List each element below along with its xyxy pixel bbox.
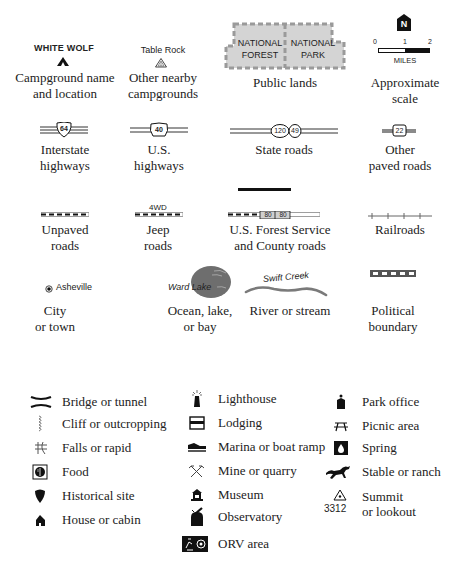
railroads-caption: Railroads — [355, 222, 445, 238]
other-paved-shield: 22 — [393, 127, 406, 134]
symbol-orv: ORV area — [182, 534, 269, 554]
mine-icon — [186, 464, 208, 478]
food-icon — [30, 464, 52, 480]
campground-icon — [57, 57, 69, 67]
other-campground-icon — [155, 58, 167, 68]
symbol-house: House or cabin — [30, 510, 141, 530]
city-dot-icon — [45, 285, 53, 293]
jeep-caption: Jeep roads — [113, 222, 203, 254]
symbol-stable: Stable or ranch — [324, 462, 441, 482]
state-road-shield-2: 49 — [289, 127, 301, 134]
city-map-label: Asheville — [56, 282, 92, 292]
jeep-road-line — [135, 212, 183, 218]
historical-site-icon — [30, 488, 52, 504]
stable-icon — [324, 463, 352, 481]
interstate-shield: 64 — [56, 125, 72, 132]
lake-map-label: Ward Lake — [168, 282, 211, 292]
lighthouse-icon — [186, 390, 208, 408]
cliff-icon — [30, 415, 52, 433]
us-highway-shield: 40 — [151, 126, 167, 133]
bridge-icon — [30, 395, 52, 409]
jeep-map-label: 4WD — [140, 203, 176, 212]
symbol-food: Food — [30, 462, 89, 482]
marina-icon — [186, 440, 208, 454]
other-paved-caption: Other paved roads — [355, 142, 445, 174]
other-campground-map-label: Table Rock — [133, 45, 193, 55]
symbol-lodging: Lodging — [186, 413, 262, 433]
county-road-shield: 80 — [276, 211, 290, 219]
state-roads-caption: State roads — [234, 142, 334, 158]
unpaved-road-line — [41, 212, 89, 218]
symbol-historical-site: Historical site — [30, 486, 135, 506]
scale-caption: Approximate scale — [360, 75, 450, 107]
summit-icon — [333, 489, 347, 501]
observatory-icon — [186, 507, 208, 527]
scale-unit: MILES — [385, 56, 425, 65]
lodging-icon — [186, 416, 208, 430]
museum-icon — [186, 488, 208, 502]
national-forest-label: NATIONAL FOREST — [234, 37, 286, 61]
forest-service-caption: U.S. Forest Service and County roads — [220, 222, 340, 254]
forest-service-shield: 80 — [261, 211, 275, 219]
national-park-label: NATIONAL PARK — [287, 37, 339, 61]
symbol-museum: Museum — [186, 485, 264, 505]
symbol-observatory: Observatory — [186, 507, 282, 527]
political-caption: Political boundary — [348, 303, 438, 335]
scale-tick-1: 1 — [403, 38, 407, 45]
symbol-falls: Falls or rapid — [30, 438, 131, 458]
picnic-icon — [330, 419, 352, 433]
symbol-cliff: Cliff or outcropping — [30, 414, 166, 434]
us-highway-caption: U.S. highways — [114, 142, 204, 174]
river-map-label: Swift Creek — [263, 270, 310, 284]
orv-icon — [182, 536, 208, 552]
lake-caption: Ocean, lake, or bay — [155, 303, 245, 335]
city-caption: City or town — [20, 303, 90, 335]
symbol-marina: Marina or boat ramp — [186, 437, 325, 457]
symbol-summit: 3312 Summit or lookout — [324, 487, 444, 523]
river-caption: River or stream — [240, 303, 340, 319]
campground-map-label: WHITE WOLF — [33, 43, 95, 53]
state-road-shield-1: 120 — [271, 127, 289, 134]
house-icon — [30, 513, 52, 527]
scale-tick-2: 2 — [428, 38, 432, 45]
interstate-caption: Interstate highways — [20, 142, 110, 174]
campground-caption: Campground name and location — [10, 70, 120, 102]
unpaved-caption: Unpaved roads — [20, 222, 110, 254]
summit-label: Summit — [362, 489, 403, 505]
north-label: N — [397, 19, 411, 29]
symbol-picnic: Picnic area — [330, 416, 419, 436]
symbol-lighthouse: Lighthouse — [186, 389, 277, 409]
summit-label-2: or lookout — [362, 504, 416, 520]
symbol-spring: Spring — [330, 438, 397, 458]
spring-icon — [330, 440, 352, 456]
scale-tick-0: 0 — [373, 38, 377, 45]
scale-bar-white — [378, 48, 406, 53]
heavy-road-line — [238, 188, 291, 191]
park-office-icon — [330, 394, 352, 410]
symbol-bridge: Bridge or tunnel — [30, 392, 147, 412]
public-lands-caption: Public lands — [230, 75, 340, 91]
river-line — [244, 283, 328, 297]
symbol-mine: Mine or quarry — [186, 461, 297, 481]
symbol-park-office: Park office — [330, 392, 419, 412]
other-campgrounds-caption: Other nearby campgrounds — [118, 70, 208, 102]
falls-icon — [30, 441, 52, 455]
political-boundary-line — [370, 270, 416, 278]
scale-bar-black — [405, 48, 430, 53]
railroad-line — [368, 212, 432, 220]
summit-elevation: 3312 — [324, 503, 346, 514]
